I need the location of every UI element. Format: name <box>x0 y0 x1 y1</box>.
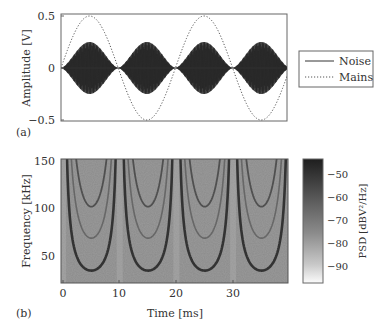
b-ytick-150: 150 <box>34 155 55 168</box>
b-xtick-30: 30 <box>226 287 240 300</box>
a-ytick-0-5: 0.5 <box>38 10 56 23</box>
cb-tick-70: −70 <box>327 215 348 226</box>
b-ytick-50: 50 <box>41 250 55 263</box>
a-ylabel: Amplitude [V] <box>20 29 33 108</box>
spectrogram <box>60 140 288 283</box>
b-xtick-20: 20 <box>169 287 183 300</box>
figure: 0.5 0 −0.5 Amplitude [V] (a) Noise Mains… <box>0 0 387 334</box>
panel-b-label: (b) <box>16 307 32 320</box>
a-ytick-0: 0 <box>48 62 55 75</box>
b-xtick-10: 10 <box>112 287 126 300</box>
colorbar-label: PSD [dBV²/Hz] <box>357 183 368 258</box>
cb-tick-60: −60 <box>327 192 348 203</box>
legend: Noise Mains <box>299 51 373 87</box>
b-xtick-0: 0 <box>60 287 67 300</box>
legend-mains-label: Mains <box>339 71 373 84</box>
a-ytick-neg-0-5: −0.5 <box>28 114 55 127</box>
cb-tick-90: −90 <box>327 261 348 272</box>
amplitude-plot <box>61 14 287 121</box>
cb-tick-50: −50 <box>327 169 348 180</box>
legend-noise-label: Noise <box>339 55 371 68</box>
panel-a-label: (a) <box>16 126 31 139</box>
b-xlabel: Time [ms] <box>147 307 203 320</box>
cb-tick-80: −80 <box>327 238 348 249</box>
b-ylabel: Frequency [kHz] <box>20 174 33 268</box>
colorbar: −50 −60 −70 −80 −90 PSD [dBV²/Hz] <box>303 159 368 283</box>
b-ytick-100: 100 <box>34 202 55 215</box>
